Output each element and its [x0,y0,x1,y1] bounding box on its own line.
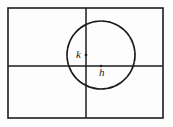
figure-container: k h [0,0,173,127]
label-h: h [99,66,105,78]
geometry-figure: k h [0,0,173,127]
k-tick-marker [85,54,88,57]
